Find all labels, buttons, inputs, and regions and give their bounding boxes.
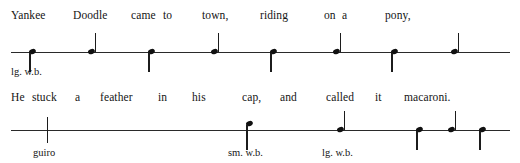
note-stem-down — [246, 125, 247, 150]
music-system-2: Hestuckafeatherinhiscap,andcalleditmacar… — [0, 85, 520, 163]
lyric-word: came — [131, 8, 156, 22]
note-stem-up — [455, 111, 456, 130]
lyric-word: called — [326, 90, 354, 104]
note-stem-down — [391, 53, 392, 72]
lyric-word: a — [342, 8, 347, 22]
lyric-word: in — [158, 90, 167, 104]
note-stem-up — [458, 33, 459, 52]
staff-line-1 — [11, 52, 510, 53]
staff-line-2 — [11, 130, 510, 131]
note-stem-down — [148, 53, 149, 72]
lyric-word: cap, — [242, 90, 261, 104]
lyric-word: feather — [100, 90, 133, 104]
note-stem-down — [479, 131, 480, 150]
guiro-scrape-stroke — [47, 117, 48, 143]
instrument-label: sm. w.b. — [228, 147, 263, 159]
lyric-row-1: YankeeDoodlecametotown,ridingonapony, — [0, 8, 520, 26]
lyric-word: a — [75, 90, 80, 104]
note-stem-up — [344, 111, 345, 130]
note-stem-down — [416, 131, 417, 150]
lyric-word: and — [280, 90, 297, 104]
lyric-word: Yankee — [11, 8, 46, 22]
lyric-word: town, — [202, 8, 228, 22]
note-stem-up — [340, 33, 341, 52]
note-stem-up — [218, 33, 219, 52]
instrument-label: lg. w.b. — [322, 147, 353, 159]
lyric-word: stuck — [32, 90, 57, 104]
instrument-label: guiro — [33, 147, 55, 159]
lyric-word: to — [163, 8, 172, 22]
lyric-word: He — [11, 90, 25, 104]
note-stem-down — [270, 53, 271, 72]
lyric-word: pony, — [385, 8, 411, 22]
music-system-1: YankeeDoodlecametotown,ridingonapony, lg… — [0, 0, 520, 85]
note-stem-up — [95, 33, 96, 52]
lyric-word: Doodle — [73, 8, 107, 22]
lyric-word: riding — [260, 8, 288, 22]
lyric-word: it — [375, 90, 382, 104]
lyric-row-2: Hestuckafeatherinhiscap,andcalleditmacar… — [0, 90, 520, 108]
lyric-word: on — [324, 8, 336, 22]
music-notation-figure: YankeeDoodlecametotown,ridingonapony, lg… — [0, 0, 520, 163]
lyric-word: his — [192, 90, 206, 104]
lyric-word: macaroni. — [404, 90, 451, 104]
instrument-label: lg. w.b. — [11, 66, 42, 78]
